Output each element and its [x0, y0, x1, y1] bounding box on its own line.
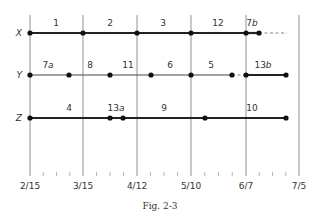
row-label: X	[15, 28, 23, 38]
date-gridlines	[30, 15, 299, 176]
activity-label: 11	[122, 60, 133, 70]
date-label: 3/15	[73, 181, 93, 191]
activity-label: 12	[212, 18, 223, 28]
row-label: Y	[17, 70, 24, 80]
row-z: Z413a910	[15, 103, 289, 123]
event-node	[134, 30, 139, 35]
event-node	[243, 30, 248, 35]
row-y: Y7a8116513b	[17, 60, 289, 80]
activity-label: 3	[160, 18, 166, 28]
date-label: 7/5	[292, 181, 306, 191]
row-label: Z	[15, 113, 23, 123]
event-node	[66, 72, 71, 77]
minor-ticks	[43, 172, 286, 176]
date-label: 2/15	[20, 181, 40, 191]
activity-label: 6	[167, 60, 173, 70]
event-node	[188, 72, 193, 77]
activity-schedule-diagram: X123127bY7a8116513bZ413a910 2/153/154/12…	[0, 0, 320, 214]
event-node	[80, 30, 85, 35]
date-axis-labels: 2/153/154/125/106/77/5	[20, 181, 306, 191]
activity-label: 7b	[246, 18, 258, 28]
activity-label: 7a	[42, 60, 53, 70]
event-node	[188, 30, 193, 35]
activity-label: 2	[107, 18, 113, 28]
event-node	[283, 115, 288, 120]
event-node	[283, 72, 288, 77]
activity-label: 13b	[254, 60, 271, 70]
activity-label: 10	[246, 103, 258, 113]
activity-label: 13a	[108, 103, 125, 113]
activity-label: 9	[161, 103, 167, 113]
event-node	[27, 115, 32, 120]
event-node	[229, 72, 234, 77]
event-node	[243, 72, 248, 77]
event-node	[27, 30, 32, 35]
date-label: 4/12	[127, 181, 147, 191]
date-label: 6/7	[239, 181, 253, 191]
event-node	[120, 115, 125, 120]
event-node	[107, 115, 112, 120]
figure-caption: Fig. 2-3	[142, 201, 177, 211]
event-node	[256, 30, 261, 35]
event-node	[107, 72, 112, 77]
activity-label: 1	[53, 18, 59, 28]
event-node	[27, 72, 32, 77]
event-node	[202, 115, 207, 120]
date-label: 5/10	[181, 181, 201, 191]
event-node	[148, 72, 153, 77]
activity-label: 8	[87, 60, 93, 70]
activity-rows: X123127bY7a8116513bZ413a910	[15, 18, 289, 123]
activity-label: 5	[208, 60, 214, 70]
activity-label: 4	[66, 103, 72, 113]
